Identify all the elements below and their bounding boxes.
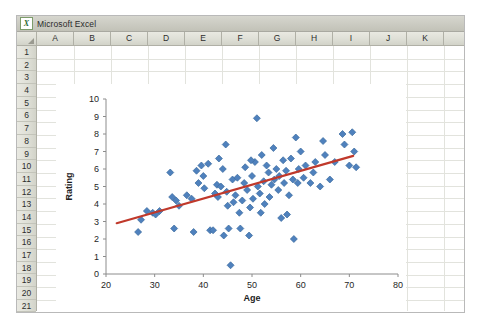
data-point bbox=[167, 169, 174, 176]
row-header-3[interactable]: 3 bbox=[17, 71, 36, 84]
data-point bbox=[284, 211, 291, 218]
data-point bbox=[239, 197, 246, 204]
data-point bbox=[190, 229, 197, 236]
grid-line-horizontal bbox=[37, 71, 464, 72]
column-header-d[interactable]: D bbox=[148, 32, 185, 45]
excel-window: X Microsoft Excel ABCDEFGHIJK 1234567891… bbox=[16, 15, 465, 313]
window-title: Microsoft Excel bbox=[37, 19, 96, 29]
data-point bbox=[247, 204, 254, 211]
row-header-21[interactable]: 21 bbox=[17, 300, 36, 313]
data-point bbox=[193, 167, 200, 174]
data-point bbox=[237, 225, 244, 232]
data-point bbox=[236, 209, 243, 216]
data-point bbox=[232, 192, 239, 199]
grid-line-horizontal bbox=[37, 59, 464, 60]
column-header-k[interactable]: K bbox=[407, 32, 444, 45]
row-header-1[interactable]: 1 bbox=[17, 46, 36, 59]
y-axis-tick-label: 4 bbox=[94, 199, 99, 209]
column-header-c[interactable]: C bbox=[111, 32, 148, 45]
row-header-20[interactable]: 20 bbox=[17, 287, 36, 300]
data-point bbox=[265, 169, 272, 176]
data-point bbox=[281, 180, 288, 187]
row-header-4[interactable]: 4 bbox=[17, 84, 36, 97]
row-header-8[interactable]: 8 bbox=[17, 135, 36, 148]
data-point bbox=[300, 174, 307, 181]
data-point bbox=[249, 173, 256, 180]
data-point bbox=[292, 134, 299, 141]
row-header-17[interactable]: 17 bbox=[17, 249, 36, 262]
data-point bbox=[195, 180, 202, 187]
data-point bbox=[215, 155, 222, 162]
data-point bbox=[310, 169, 317, 176]
excel-icon-letter: X bbox=[24, 20, 29, 28]
row-header-19[interactable]: 19 bbox=[17, 274, 36, 287]
row-header-2[interactable]: 2 bbox=[17, 59, 36, 72]
row-header-10[interactable]: 10 bbox=[17, 160, 36, 173]
column-header-b[interactable]: B bbox=[74, 32, 111, 45]
column-header-j[interactable]: J bbox=[370, 32, 407, 45]
x-axis-tick-label: 30 bbox=[150, 280, 160, 290]
column-header-h[interactable]: H bbox=[296, 32, 333, 45]
data-point bbox=[312, 159, 319, 166]
column-header-i[interactable]: I bbox=[333, 32, 370, 45]
data-point bbox=[346, 162, 353, 169]
data-point bbox=[349, 129, 356, 136]
x-axis-title: Age bbox=[243, 293, 260, 303]
row-header-column: 123456789101112131415161718192021 bbox=[17, 46, 37, 311]
data-point bbox=[242, 164, 249, 171]
row-header-11[interactable]: 11 bbox=[17, 173, 36, 186]
row-header-6[interactable]: 6 bbox=[17, 109, 36, 122]
data-point bbox=[317, 183, 324, 190]
y-axis-tick-label: 10 bbox=[89, 94, 99, 104]
column-header-a[interactable]: A bbox=[37, 32, 74, 45]
row-header-14[interactable]: 14 bbox=[17, 211, 36, 224]
y-axis-tick-label: 3 bbox=[94, 217, 99, 227]
data-point bbox=[205, 160, 212, 167]
row-header-15[interactable]: 15 bbox=[17, 224, 36, 237]
row-header-5[interactable]: 5 bbox=[17, 97, 36, 110]
data-point bbox=[230, 199, 237, 206]
x-axis-tick-label: 80 bbox=[393, 280, 403, 290]
data-point bbox=[198, 162, 205, 169]
data-point bbox=[297, 148, 304, 155]
row-header-16[interactable]: 16 bbox=[17, 236, 36, 249]
data-point bbox=[307, 180, 314, 187]
y-axis-tick-label: 7 bbox=[94, 147, 99, 157]
x-axis-tick-label: 40 bbox=[198, 280, 208, 290]
row-header-12[interactable]: 12 bbox=[17, 186, 36, 199]
x-axis-tick-label: 60 bbox=[296, 280, 306, 290]
x-axis-tick-label: 70 bbox=[344, 280, 354, 290]
row-header-18[interactable]: 18 bbox=[17, 262, 36, 275]
row-header-9[interactable]: 9 bbox=[17, 148, 36, 161]
data-point bbox=[249, 195, 256, 202]
data-point bbox=[201, 185, 208, 192]
data-point bbox=[273, 166, 280, 173]
y-axis-tick-label: 0 bbox=[94, 269, 99, 279]
column-header-e[interactable]: E bbox=[185, 32, 222, 45]
data-point bbox=[135, 229, 142, 236]
data-point bbox=[219, 166, 226, 173]
trendline bbox=[117, 156, 354, 223]
row-header-7[interactable]: 7 bbox=[17, 122, 36, 135]
y-axis-title: Rating bbox=[64, 173, 74, 201]
column-header-g[interactable]: G bbox=[259, 32, 296, 45]
row-header-13[interactable]: 13 bbox=[17, 198, 36, 211]
data-point bbox=[224, 202, 231, 209]
select-all-button[interactable] bbox=[17, 32, 37, 45]
data-point bbox=[341, 141, 348, 148]
scatter-chart[interactable]: 01234567891020304050607080AgeRating bbox=[56, 84, 406, 313]
data-point bbox=[253, 115, 260, 122]
y-axis-tick-label: 8 bbox=[94, 129, 99, 139]
y-axis-tick-label: 2 bbox=[94, 234, 99, 244]
data-point bbox=[278, 215, 285, 222]
data-point bbox=[257, 209, 264, 216]
excel-icon: X bbox=[20, 17, 33, 30]
data-point bbox=[266, 194, 273, 201]
data-point bbox=[263, 162, 270, 169]
y-axis-tick-label: 9 bbox=[94, 112, 99, 122]
column-header-f[interactable]: F bbox=[222, 32, 259, 45]
data-point bbox=[339, 131, 346, 138]
data-point bbox=[225, 225, 232, 232]
spreadsheet-grid: ABCDEFGHIJK 1234567891011121314151617181… bbox=[17, 32, 464, 311]
column-header-row: ABCDEFGHIJK bbox=[17, 32, 464, 46]
